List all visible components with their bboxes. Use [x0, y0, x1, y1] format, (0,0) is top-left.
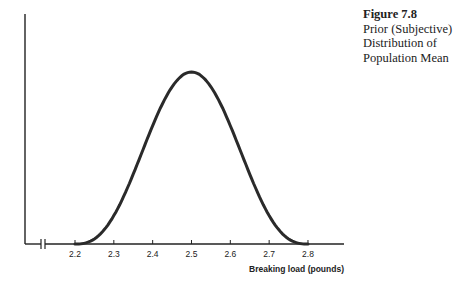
caption-line-2: Distribution of — [363, 36, 452, 51]
x-tick-label: 2.4 — [147, 249, 159, 259]
x-tick-label: 2.5 — [186, 249, 198, 259]
x-axis-label: Breaking load (pounds) — [249, 264, 344, 274]
x-tick-label: 2.6 — [224, 249, 236, 259]
caption-line-1: Prior (Subjective) — [363, 22, 452, 37]
caption-line-3: Population Mean — [363, 51, 452, 66]
distribution-curve — [75, 72, 308, 244]
x-tick-label: 2.7 — [263, 249, 275, 259]
figure-number: Figure 7.8 — [363, 7, 452, 22]
x-axis-tick-labels: 2.22.32.42.52.62.72.8 — [69, 249, 314, 259]
figure-caption: Figure 7.8 Prior (Subjective) Distributi… — [363, 7, 452, 65]
x-tick-label: 2.8 — [302, 249, 314, 259]
x-tick-label: 2.3 — [108, 249, 120, 259]
x-tick-label: 2.2 — [69, 249, 81, 259]
